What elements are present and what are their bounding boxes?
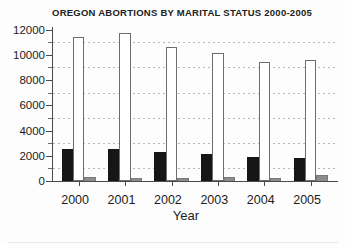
x-axis-title: Year xyxy=(162,208,210,223)
bar-black-bar-2001 xyxy=(108,149,119,181)
bar-gray-bar-2004 xyxy=(270,178,281,181)
bar-black-bar-2000 xyxy=(62,149,73,181)
x-tick-label: 2003 xyxy=(192,193,236,207)
y-tick-minor xyxy=(48,118,52,119)
bar-gray-bar-2003 xyxy=(224,177,235,181)
x-tick-label: 2002 xyxy=(146,193,190,207)
y-tick-label: 2000 xyxy=(19,150,45,162)
bar-gray-bar-2001 xyxy=(131,178,142,181)
y-tick-minor xyxy=(48,67,52,68)
x-tick xyxy=(264,182,265,186)
bar-black-bar-2004 xyxy=(247,157,258,181)
y-gridline xyxy=(53,118,338,119)
y-tick-label: 8000 xyxy=(19,74,45,86)
bar-black-bar-2002 xyxy=(154,152,165,181)
y-tick-major xyxy=(46,55,52,56)
y-tick-label: 4000 xyxy=(19,125,45,137)
x-tick xyxy=(79,182,80,186)
y-tick-major xyxy=(46,131,52,132)
chart-title: OREGON ABORTIONS BY MARITAL STATUS 2000-… xyxy=(52,7,312,18)
y-gridline xyxy=(53,93,338,94)
y-tick-label: 10000 xyxy=(13,49,45,61)
bar-white-bar-2004 xyxy=(259,62,270,181)
y-tick-label: 6000 xyxy=(19,99,45,111)
x-tick-label: 2001 xyxy=(100,193,144,207)
scan-artifact-line xyxy=(8,242,338,243)
bar-white-bar-2003 xyxy=(212,53,223,181)
x-tick-label: 2005 xyxy=(285,193,329,207)
bar-black-bar-2003 xyxy=(201,154,212,181)
y-axis-line xyxy=(52,27,53,182)
y-gridline xyxy=(53,42,338,43)
bar-white-bar-2002 xyxy=(166,47,177,181)
y-tick-minor xyxy=(48,143,52,144)
y-tick-label: 12000 xyxy=(13,24,45,36)
bar-white-bar-2005 xyxy=(305,60,316,181)
x-tick-label: 2000 xyxy=(53,193,97,207)
y-tick-label: 0 xyxy=(39,175,45,187)
y-gridline xyxy=(53,143,338,144)
bar-white-bar-2001 xyxy=(119,33,130,181)
x-tick xyxy=(125,182,126,186)
y-tick-major xyxy=(46,30,52,31)
bar-gray-bar-2002 xyxy=(177,178,188,181)
y-tick-minor xyxy=(48,42,52,43)
bar-white-bar-2000 xyxy=(73,37,84,181)
bar-black-bar-2005 xyxy=(294,158,305,181)
y-tick-major xyxy=(46,156,52,157)
bar-gray-bar-2005 xyxy=(316,175,327,181)
abortion-bar-chart: OREGON ABORTIONS BY MARITAL STATUS 2000-… xyxy=(0,0,345,245)
x-tick-label: 2004 xyxy=(239,193,283,207)
y-tick-minor xyxy=(48,168,52,169)
bar-gray-bar-2000 xyxy=(84,177,95,181)
x-tick xyxy=(311,182,312,186)
y-tick-major xyxy=(46,181,52,182)
x-tick xyxy=(172,182,173,186)
y-tick-major xyxy=(46,105,52,106)
y-gridline xyxy=(53,67,338,68)
y-tick-major xyxy=(46,80,52,81)
y-tick-minor xyxy=(48,93,52,94)
x-tick xyxy=(218,182,219,186)
x-axis-line xyxy=(52,181,338,182)
